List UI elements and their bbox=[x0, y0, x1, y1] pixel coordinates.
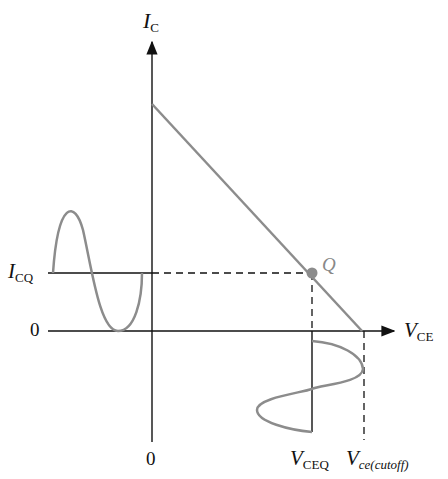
zero-y-label: 0 bbox=[30, 319, 40, 341]
load-line bbox=[152, 104, 362, 331]
icq-label: ICQ bbox=[8, 259, 33, 284]
ic-sine-wave bbox=[53, 211, 142, 331]
vce-axis-label: VCE bbox=[404, 318, 433, 343]
ic-axis-label: IC bbox=[143, 8, 159, 34]
vceq-label: VCEQ bbox=[290, 446, 329, 471]
q-point-dot bbox=[307, 268, 318, 279]
vcutoff-label: Vce(cutoff) bbox=[346, 446, 409, 471]
load-line-diagram bbox=[0, 0, 448, 479]
zero-x-label: 0 bbox=[146, 448, 156, 470]
q-point-label: Q bbox=[322, 254, 336, 276]
vce-sine-wave bbox=[257, 341, 363, 432]
